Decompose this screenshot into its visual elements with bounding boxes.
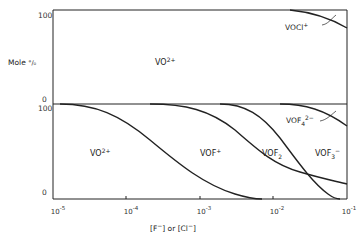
lower-species-vof: VOF+ xyxy=(200,150,221,158)
lower-species-vo2: VO2+ xyxy=(90,150,111,158)
y-axis-title-text: Mole xyxy=(8,58,26,67)
x-tick-1e-4: 10-4 xyxy=(124,208,138,216)
y-axis-title: Mole °/₀ xyxy=(8,59,36,67)
lower-species-vof3: VOF3− xyxy=(315,150,340,158)
x-tick-1e-3: 10-3 xyxy=(197,208,211,216)
x-axis-title: [F−] or [Cl−] xyxy=(150,225,196,233)
curve-vof-vof2 xyxy=(150,104,347,184)
x-tick-1e-2: 10-2 xyxy=(270,208,284,216)
x-tick-1e-5: 10-5 xyxy=(51,208,65,216)
upper-y-top-label: 100 xyxy=(38,11,52,20)
lower-y-bottom-label: 0 xyxy=(42,188,47,197)
y-axis-title-unit: °/₀ xyxy=(28,59,36,67)
x-tick-1e-1: 10-1 xyxy=(342,208,356,216)
upper-y-bottom-label: 0 xyxy=(42,95,47,104)
lower-species-vof4: VOF42− xyxy=(286,117,314,125)
upper-species-vocl: VOCl+ xyxy=(285,24,308,32)
lower-species-vof2: VOF2 xyxy=(262,150,282,158)
lower-y-top-label: 100 xyxy=(38,104,52,113)
vocl-leader-line xyxy=(322,15,336,25)
upper-species-vo2: VO2+ xyxy=(155,59,176,67)
